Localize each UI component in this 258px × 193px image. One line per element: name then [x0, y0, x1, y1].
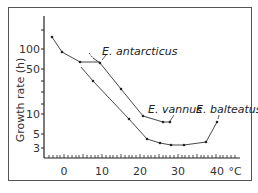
label-e-balteatus: E. balteatus	[196, 103, 258, 116]
x-tick-20: 20	[133, 165, 147, 178]
series-e-antarcticus	[52, 37, 100, 62]
y-axis-label: Growth rate (h)	[14, 58, 27, 143]
x-unit-label: °C	[228, 165, 242, 178]
y-tick-5: 5	[33, 128, 40, 141]
growth-rate-chart: 100 50 10 5 3 0 10 20 30 40 °C Growth ra…	[0, 0, 258, 193]
x-tick-0: 0	[61, 165, 68, 178]
label-e-vannus: E. vannus	[148, 103, 202, 116]
x-tick-40: 40	[210, 165, 224, 178]
y-tick-50: 50	[26, 63, 40, 76]
x-tick-30: 30	[171, 165, 185, 178]
y-tick-10: 10	[26, 108, 40, 121]
label-e-antarcticus: E. antarcticus	[102, 45, 178, 58]
y-tick-3: 3	[33, 142, 40, 155]
series-e-vannus-dashed	[89, 53, 93, 58]
x-tick-10: 10	[95, 165, 109, 178]
y-tick-100: 100	[19, 43, 40, 56]
